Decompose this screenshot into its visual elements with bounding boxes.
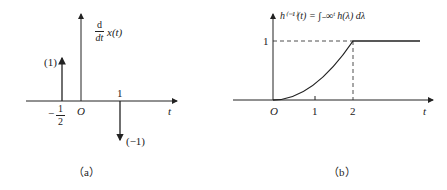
diagram-canvas xyxy=(0,0,447,190)
panel-b-ylabel: h⁽⁻¹⁾(t) = ∫₋∞ᵗ h(λ) dλ xyxy=(280,11,365,21)
caption-a: （a） xyxy=(73,167,100,178)
origin-label-b: O xyxy=(270,106,278,117)
x-axis-label: t xyxy=(168,106,171,117)
origin-label: O xyxy=(77,106,85,117)
x-axis-label-b: t xyxy=(423,106,426,117)
panel-b-curve xyxy=(273,41,420,100)
impulse-weight-down: (−1) xyxy=(126,136,145,147)
x-tick-1: 1 xyxy=(312,106,318,117)
derivative-operator: ddt xyxy=(95,20,104,43)
x-tick-2: 2 xyxy=(350,106,356,117)
panel-b-axes xyxy=(233,14,433,100)
caption-b: （b） xyxy=(328,167,356,178)
y-tick-1: 1 xyxy=(263,36,269,47)
tick-neg-sign: − xyxy=(48,108,54,119)
tick-1: 1 xyxy=(117,88,123,99)
panel-a-impulses xyxy=(62,58,120,140)
panel-a-ylabel: x(t) xyxy=(107,27,122,38)
panel-b-guides xyxy=(273,41,353,100)
tick-neg-half: 12 xyxy=(56,104,65,127)
impulse-weight-up: (1) xyxy=(44,57,57,68)
